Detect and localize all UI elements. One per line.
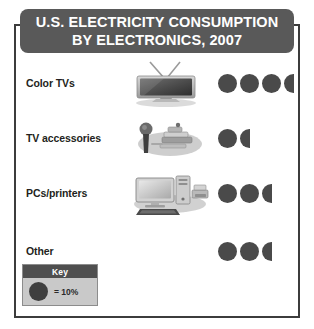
dot-half	[262, 184, 272, 203]
key-header-label: Key	[23, 265, 97, 278]
row-dots-pcs-printers	[218, 182, 272, 204]
data-row: Color TVs	[22, 58, 292, 108]
title-banner: U.S. ELECTRICITY CONSUMPTION BY ELECTRON…	[20, 9, 294, 53]
key-body: = 10%	[23, 278, 97, 305]
data-row: TV accessories	[22, 113, 292, 163]
row-label-color-tvs: Color TVs	[26, 77, 126, 89]
row-label-pcs-printers: PCs/printers	[26, 187, 126, 199]
row-dots-tv-accessories	[218, 127, 250, 149]
dot-half	[284, 74, 294, 93]
dot-full	[218, 129, 237, 148]
title-line-2: BY ELECTRONICS, 2007	[72, 31, 242, 49]
key-legend: Key = 10%	[22, 264, 98, 306]
key-value-label: = 10%	[54, 287, 78, 297]
filled-circle-icon	[29, 282, 48, 301]
dot-full	[240, 242, 259, 261]
tv-accessories-icon	[118, 113, 214, 163]
infographic-container: U.S. ELECTRICITY CONSUMPTION BY ELECTRON…	[0, 0, 314, 329]
row-label-tv-accessories: TV accessories	[26, 132, 126, 144]
dot-full	[240, 184, 259, 203]
data-row: PCs/printers	[22, 168, 292, 218]
dot-full	[218, 184, 237, 203]
dot-full	[262, 74, 281, 93]
rows-panel: Color TVs	[22, 58, 292, 258]
dot-half	[262, 242, 272, 261]
dot-full	[218, 242, 237, 261]
dot-full	[218, 74, 237, 93]
title-line-1: U.S. ELECTRICITY CONSUMPTION	[36, 13, 279, 31]
television-icon	[118, 58, 214, 108]
row-label-other: Other	[26, 245, 126, 257]
row-dots-other	[218, 240, 272, 262]
row-dots-color-tvs	[218, 72, 294, 94]
dot-full	[240, 74, 259, 93]
dot-half	[240, 129, 250, 148]
computer-printer-icon	[118, 168, 214, 218]
